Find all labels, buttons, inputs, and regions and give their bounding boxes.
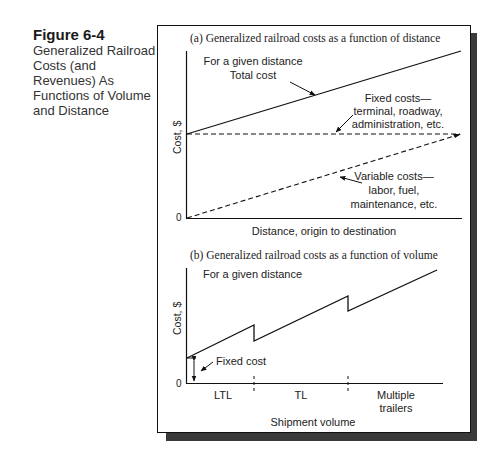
panel-a-title: (a) Generalized railroad costs as a func… (190, 32, 440, 45)
panel-a-x-label: Distance, origin to destination (252, 225, 396, 237)
panel-b-subtitle: For a given distance (203, 268, 302, 280)
segment-multi-label-line1: Multiple (377, 389, 415, 401)
panel-b: (b) Generalized railroad costs as a func… (171, 249, 443, 428)
segment-multi-label-line2: trailers (379, 402, 413, 414)
total-cost-pointer-arrow-icon (290, 82, 315, 95)
total-annotation-line1: For a given distance (203, 55, 302, 67)
figure-diagram: (a) Generalized railroad costs as a func… (0, 0, 501, 458)
panel-a-y-label: Cost, $ (171, 121, 183, 154)
panel-b-x-label: Shipment volume (271, 416, 356, 428)
fixed-line-arrowhead-icon (453, 134, 461, 138)
panel-b-zero-label: 0 (176, 378, 182, 389)
panel-a-zero-label: 0 (176, 212, 182, 223)
segment-tl-label: TL (295, 389, 308, 401)
fixed-annotation-line3: administration, etc. (352, 118, 444, 130)
variable-annotation-line1: Variable costs— (354, 170, 433, 182)
segment-ltl-label: LTL (214, 389, 232, 401)
variable-annotation-line2: labor, fuel, (369, 184, 420, 196)
panel-b-title: (b) Generalized railroad costs as a func… (190, 249, 438, 262)
fixed-cost-label: Fixed cost (216, 355, 266, 367)
fixed-cost-pointer-arrow-icon (201, 362, 213, 371)
panel-b-y-label: Cost, $ (171, 302, 183, 335)
fixed-cost-pointer-arrow-icon (336, 115, 353, 132)
fixed-annotation-line1: Fixed costs— (365, 92, 432, 104)
variable-annotation-line3: maintenance, etc. (351, 198, 438, 210)
volume-cost-line (187, 270, 437, 358)
total-annotation-line2: Total cost (230, 69, 276, 81)
fixed-annotation-line2: terminal, roadway, (353, 105, 442, 117)
panel-a: (a) Generalized railroad costs as a func… (171, 32, 462, 237)
